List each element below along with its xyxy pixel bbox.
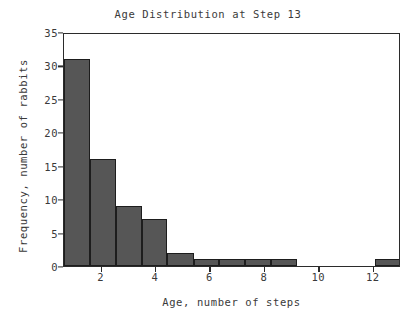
x-axis-tick-mark xyxy=(373,267,374,272)
histogram-bars xyxy=(64,34,399,266)
histogram-bar xyxy=(90,159,116,266)
x-axis-tick-label: 8 xyxy=(244,271,284,283)
x-axis-tick-label: 4 xyxy=(135,271,175,283)
histogram-bar xyxy=(271,259,297,266)
histogram-bar xyxy=(167,253,193,266)
x-axis-title: Age, number of steps xyxy=(63,296,400,308)
histogram-bar xyxy=(116,206,142,266)
histogram-bar xyxy=(194,259,220,266)
plot-area xyxy=(63,33,400,267)
histogram-bar xyxy=(64,59,90,266)
histogram-bar xyxy=(219,259,245,266)
y-axis-title: Frequency, number of rabbits xyxy=(17,41,29,271)
histogram-bar xyxy=(245,259,271,266)
chart-canvas: Age Distribution at Step 13 051015202530… xyxy=(0,0,416,325)
x-axis-tick-label: 10 xyxy=(298,271,338,283)
x-axis-tick-mark xyxy=(264,267,265,272)
x-axis-tick-label: 6 xyxy=(189,271,229,283)
histogram-bar xyxy=(375,259,400,266)
x-axis-tick-mark xyxy=(209,267,210,272)
x-axis-tick-mark xyxy=(101,267,102,272)
x-axis-tick-mark xyxy=(318,267,319,272)
x-axis-tick-label: 2 xyxy=(81,271,121,283)
histogram-bar xyxy=(142,219,168,266)
x-axis-tick-mark xyxy=(155,267,156,272)
x-axis-tick-label: 12 xyxy=(353,271,393,283)
